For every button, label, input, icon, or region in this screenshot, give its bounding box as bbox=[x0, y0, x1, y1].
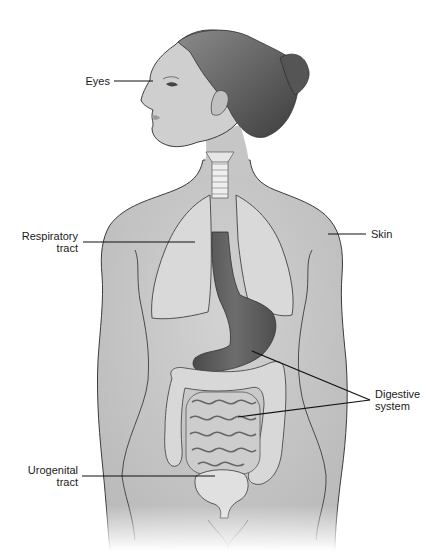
bottom-fade bbox=[0, 505, 439, 551]
label-urogenital-tract: Urogenital tract bbox=[0, 464, 78, 488]
label-skin: Skin bbox=[371, 228, 421, 240]
anatomy-diagram: Eyes Respiratory tract Skin Digestive sy… bbox=[0, 0, 439, 551]
label-digestive-system: Digestive system bbox=[375, 388, 435, 412]
head bbox=[141, 30, 309, 147]
small-intestine bbox=[186, 392, 260, 474]
label-eyes: Eyes bbox=[60, 75, 110, 87]
label-respiratory-tract: Respiratory tract bbox=[0, 230, 78, 254]
